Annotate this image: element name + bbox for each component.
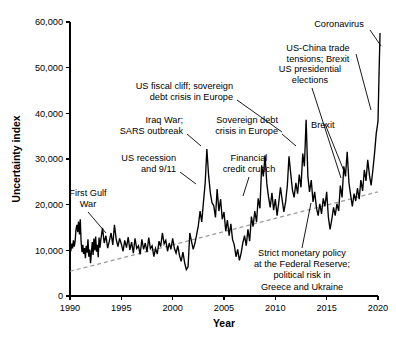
annotation-label-financial-credit-crunch: Financialcredit crunch — [223, 153, 276, 174]
annotation-leader-us-china-trade — [356, 54, 371, 110]
annotation-iraq-war-sars: Iraq War;SARS outbreak — [120, 115, 201, 146]
annotation-leader-first-gulf-war — [88, 212, 106, 233]
annotation-label-brexit-2016: Brexit — [311, 120, 335, 130]
x-tick-label: 2005 — [214, 303, 234, 313]
y-axis-ticks — [66, 22, 70, 296]
y-tick-labels: 010,00020,00030,00040,00050,00060,000 — [35, 17, 63, 301]
annotation-label-us-fiscal-cliff: US fiscal cliff; sovereigndebt crisis in… — [136, 81, 233, 102]
annotation-leader-financial-credit-crunch — [243, 177, 249, 196]
annotation-label-us-recession-911: US recessionand 9/11 — [121, 153, 176, 174]
annotation-strict-monetary-policy: Strict monetary policyat the Federal Res… — [254, 203, 350, 292]
annotation-leader-iraq-war-sars — [187, 134, 201, 146]
x-tick-label: 1990 — [60, 303, 80, 313]
x-tick-label: 2000 — [162, 303, 182, 313]
annotation-leader-sovereign-debt-europe — [282, 134, 296, 146]
x-tick-label: 2015 — [316, 303, 336, 313]
x-axis-title: Year — [213, 318, 235, 329]
annotation-label-coronavirus: Coronavirus — [314, 19, 364, 29]
y-tick-label: 30,000 — [35, 154, 63, 164]
annotation-brexit-2016: Brexit — [311, 120, 346, 176]
uncertainty-index-figure: 010,00020,00030,00040,00050,00060,000 19… — [0, 0, 396, 347]
y-tick-label: 40,000 — [35, 109, 63, 119]
y-tick-label: 0 — [58, 291, 63, 301]
annotation-leader-us-presidential — [312, 88, 341, 178]
annotation-leader-us-recession-911 — [180, 172, 196, 184]
annotation-coronavirus: Coronavirus — [314, 19, 381, 46]
x-tick-label: 2010 — [265, 303, 285, 313]
annotation-label-us-presidential: US presidentialelections — [279, 64, 341, 85]
annotation-us-recession-911: US recessionand 9/11 — [121, 153, 196, 184]
x-tick-label: 2020 — [368, 303, 388, 313]
y-tick-label: 10,000 — [35, 246, 63, 256]
y-tick-label: 20,000 — [35, 200, 63, 210]
annotation-leader-strict-monetary-policy — [302, 203, 311, 248]
x-axis-ticks — [70, 296, 378, 300]
annotation-label-us-china-trade: US-China tradetensions; Brexit — [286, 43, 350, 64]
chart-canvas: 010,00020,00030,00040,00050,00060,000 19… — [0, 0, 396, 347]
y-tick-label: 60,000 — [35, 17, 63, 27]
annotation-label-strict-monetary-policy: Strict monetary policyat the Federal Res… — [254, 248, 350, 292]
annotation-first-gulf-war: First GulfWar — [69, 188, 107, 233]
annotations: First GulfWarUS recessionand 9/11Iraq Wa… — [69, 19, 381, 292]
x-tick-labels: 1990199520002005201020152020 — [60, 303, 388, 313]
y-tick-label: 50,000 — [35, 63, 63, 73]
y-axis-title: Uncertainty index — [11, 115, 22, 202]
annotation-leader-brexit-2016 — [325, 124, 346, 176]
annotation-label-first-gulf-war: First GulfWar — [69, 188, 107, 209]
x-tick-label: 1995 — [111, 303, 131, 313]
annotation-sovereign-debt-europe: Sovereign debtcrisis in Europe — [215, 115, 296, 146]
annotation-label-sovereign-debt-europe: Sovereign debtcrisis in Europe — [215, 115, 278, 136]
annotation-label-iraq-war-sars: Iraq War;SARS outbreak — [120, 115, 184, 136]
